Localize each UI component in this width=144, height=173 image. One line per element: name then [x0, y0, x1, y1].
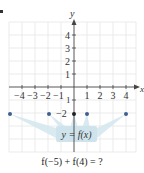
point-0	[72, 112, 76, 116]
x-tick-3: 3	[111, 90, 116, 101]
y-tick-2: 2	[65, 56, 70, 67]
x-tick-neg3: −3	[27, 90, 38, 101]
x-tick-neg2: −2	[40, 90, 51, 101]
x-tick-2: 2	[98, 90, 103, 101]
y-tick-neg2: −2	[56, 108, 67, 119]
question-text: f(−5) + f(4) = ?	[0, 156, 144, 167]
y-tick-1: 1	[65, 69, 70, 80]
y-tick-neg1: 1	[66, 95, 71, 105]
callout-label: y = f(x)	[60, 129, 92, 141]
x-axis-label: x	[139, 84, 144, 94]
y-axis-label: y	[69, 8, 75, 19]
y-tick-3: 3	[65, 43, 70, 54]
point-neg2	[47, 112, 51, 116]
point-4	[124, 112, 128, 116]
x-tick-neg4: −4	[14, 90, 25, 101]
point-1	[85, 112, 89, 116]
point-neg5	[8, 112, 12, 116]
function-plot: y x 4 3 2 1 1 −2 −4 −3 −2 −1 1 2 3 4 y =…	[0, 0, 144, 156]
x-tick-neg1: −1	[53, 90, 64, 101]
y-tick-4: 4	[65, 30, 70, 41]
x-tick-1: 1	[85, 90, 90, 101]
x-tick-4: 4	[124, 90, 129, 101]
